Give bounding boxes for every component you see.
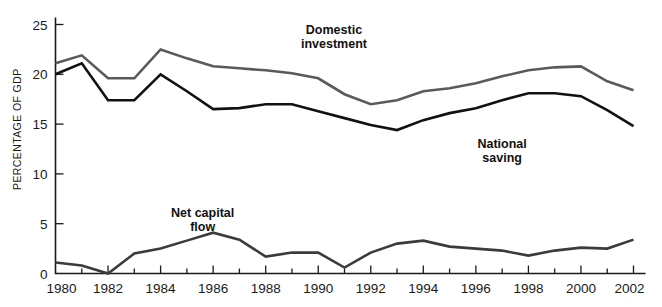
tick-marks [56,25,634,274]
x-tick-label-1998: 1998 [513,281,543,296]
x-tick-label-1982: 1982 [93,281,123,296]
annotation-line-1: Domestic [306,23,362,37]
x-tick-label-1996: 1996 [461,281,491,296]
data-series [56,49,634,273]
y-axis-title-text: PERCENTAGE OF GDP [11,68,23,190]
y-tick-label-25: 25 [32,18,47,33]
x-tick-label-1988: 1988 [251,281,281,296]
x-axis-tick-labels: 1980198219841986198819901992199419961998… [46,281,644,296]
y-tick-label-10: 10 [32,167,47,182]
series-annotations: DomesticinvestmentNationalsavingNet capi… [171,23,527,233]
series-line-net-capital-flow [56,233,634,274]
x-tick-label-1984: 1984 [146,281,177,296]
annotation-line-2: saving [482,151,522,165]
axes [56,18,646,274]
x-tick-label-1986: 1986 [198,281,228,296]
y-tick-label-5: 5 [40,217,48,232]
annotation-net-capital-flow: Net capitalflow [171,206,234,234]
x-tick-label-1980: 1980 [46,281,76,296]
x-tick-label-1992: 1992 [356,281,386,296]
x-tick-label-1990: 1990 [303,281,333,296]
x-tick-label-2002: 2002 [614,281,644,296]
series-line-national-saving [56,63,634,130]
annotation-line-1: Net capital [171,206,234,220]
chart-container: 0510152025 19801982198419861988199019921… [0,0,662,307]
y-tick-label-0: 0 [40,267,48,282]
y-tick-label-20: 20 [32,67,47,82]
y-tick-label-15: 15 [32,117,47,132]
y-axis-title: PERCENTAGE OF GDP [11,68,23,190]
annotation-line-2: flow [190,220,215,234]
annotation-domestic-investment: Domesticinvestment [301,23,368,51]
y-axis-tick-labels: 0510152025 [32,18,47,282]
series-line-domestic-investment [56,49,634,104]
annotation-line-1: National [477,137,526,151]
x-tick-label-1994: 1994 [408,281,439,296]
line-chart: 0510152025 19801982198419861988199019921… [0,0,662,307]
axis-lines [56,18,646,274]
x-tick-label-2000: 2000 [566,281,596,296]
annotation-national-saving: Nationalsaving [477,137,526,165]
annotation-line-2: investment [301,37,368,51]
